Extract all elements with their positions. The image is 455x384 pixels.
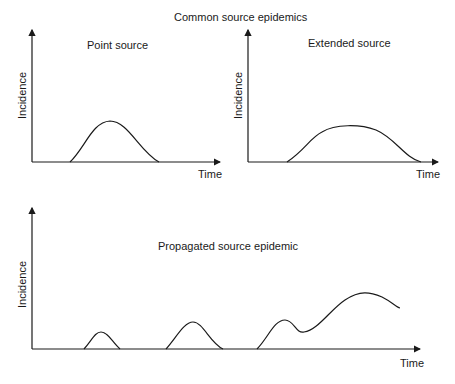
- propagated-panel-title: Propagated source epidemic: [158, 240, 298, 252]
- extended-x-label: Time: [416, 168, 440, 180]
- propagated-wave-2: [166, 322, 223, 349]
- point-x-label: Time: [198, 168, 222, 180]
- point-y-label: Incidence: [16, 72, 28, 119]
- propagated-x-label: Time: [400, 357, 424, 369]
- propagated-wave-3: [257, 293, 400, 349]
- main-title: Common source epidemics: [174, 11, 307, 23]
- point-panel-title: Point source: [87, 39, 148, 51]
- propagated-y-label: Incidence: [16, 261, 28, 308]
- point-source-curve: [70, 121, 159, 162]
- propagated-wave-1: [84, 332, 120, 349]
- extended-y-label: Incidence: [232, 72, 244, 119]
- extended-panel-title: Extended source: [308, 37, 391, 49]
- extended-source-curve: [287, 126, 421, 162]
- epidemic-curves-diagram: [0, 0, 455, 384]
